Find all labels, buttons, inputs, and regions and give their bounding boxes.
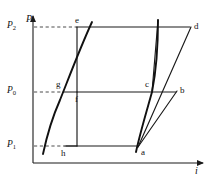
- tick-label-p0-text: P: [7, 85, 13, 95]
- y-axis-label: P: [26, 14, 32, 24]
- axis-group: [33, 16, 203, 163]
- point-label-d: d: [194, 22, 199, 31]
- point-label-a: a: [141, 148, 145, 157]
- tick-label-p1-sub: 1: [13, 143, 16, 150]
- saturated-liquid-curve: [43, 22, 92, 154]
- tick-label-p2-text: P: [7, 20, 13, 30]
- point-label-c: c: [145, 80, 149, 89]
- point-label-h: h: [61, 149, 66, 158]
- tick-label-p0: P0: [7, 86, 16, 96]
- x-axis-label: i: [195, 166, 198, 176]
- tick-label-p2-sub: 2: [13, 24, 16, 31]
- p-i-diagram-figure: P i P2 P0 P1 a b c d e f g h: [0, 0, 212, 177]
- cycle-lines-group: [63, 20, 191, 147]
- tick-label-p1: P1: [7, 140, 16, 150]
- tick-label-p2: P2: [7, 21, 16, 31]
- point-label-g: g: [56, 80, 61, 89]
- point-label-e: e: [75, 16, 79, 25]
- point-label-b: b: [180, 86, 185, 95]
- tick-label-p1-text: P: [7, 139, 13, 149]
- tick-label-p0-sub: 0: [13, 89, 16, 96]
- point-label-f: f: [75, 95, 78, 104]
